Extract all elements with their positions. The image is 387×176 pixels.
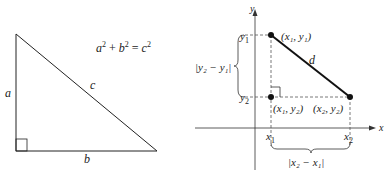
horizontal-brace	[271, 143, 350, 153]
dashed-guides	[245, 35, 350, 146]
point-x1-y2	[268, 94, 274, 100]
side-a-label: a	[5, 86, 11, 100]
side-c-label: c	[90, 78, 96, 92]
horizontal-difference-label: |x₂ − x₁|	[288, 156, 324, 168]
x-axis-label: x	[378, 122, 384, 133]
diagram-canvas: a b c a2 + b2 = c2 x y d (x₁, y₁) (x₁, y…	[0, 0, 387, 176]
tick-x2: x2	[343, 130, 353, 145]
pythagorean-formula: a2 + b2 = c2	[96, 40, 151, 55]
point-label-x2-y2: (x₂, y₂)	[313, 102, 344, 115]
point-x1-y1	[268, 32, 274, 38]
svg-text:a2 + b2 = c2: a2 + b2 = c2	[96, 40, 151, 55]
tick-x1: x1	[265, 130, 275, 145]
y-axis-label: y	[249, 3, 255, 14]
tick-y2: y2	[239, 91, 249, 106]
point-x2-y2	[347, 94, 353, 100]
vertical-brace	[234, 35, 244, 97]
right-angle-marker	[16, 139, 27, 151]
tick-y1: y1	[239, 30, 249, 45]
distance-label: d	[309, 53, 316, 67]
vertical-difference-label: |y₂ − y₁|	[195, 61, 231, 73]
x-axis-arrow-icon	[369, 126, 376, 131]
point-label-x1-y1: (x₁, y₁)	[281, 30, 312, 43]
point-label-x1-y2: (x₁, y₂)	[273, 102, 304, 115]
side-b-label: b	[84, 152, 90, 166]
